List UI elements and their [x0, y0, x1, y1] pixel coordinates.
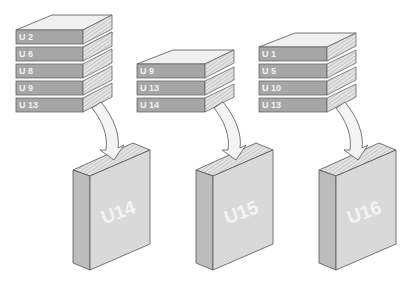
stack-2: U 9 U 13 U 14 — [137, 50, 234, 112]
merged-volume-3: U16 — [319, 143, 396, 270]
merged-volume-1: U14 — [73, 143, 150, 270]
stack-1-book-3-label: U 8 — [19, 66, 33, 76]
stack-3: U 1 U 5 U 10 U 13 — [259, 33, 356, 112]
curved-arrow-icon — [92, 102, 124, 160]
stack-3-book-4-label: U 13 — [262, 100, 281, 110]
curved-arrow-icon — [336, 102, 368, 160]
arrow-3 — [336, 102, 368, 160]
stack-3-book-3-label: U 10 — [262, 83, 281, 93]
stack-2-book-1-label: U 9 — [140, 66, 154, 76]
stack-1-book-4-label: U 9 — [19, 83, 33, 93]
curved-arrow-icon — [214, 102, 246, 160]
stack-2-book-3-label: U 14 — [140, 100, 159, 110]
arrow-2 — [214, 102, 246, 160]
merged-volume-2: U15 — [196, 143, 273, 270]
stack-1-book-5-label: U 13 — [19, 100, 38, 110]
stack-1-book-2-label: U 6 — [19, 49, 33, 59]
arrow-1 — [92, 102, 124, 160]
stack-3-book-2-label: U 5 — [262, 66, 276, 76]
stack-1-book-1-label: U 2 — [19, 32, 33, 42]
stack-2-book-2-label: U 13 — [140, 83, 159, 93]
stack-3-book-1-label: U 1 — [262, 49, 276, 59]
merge-diagram: U 2 U 6 U 8 U 9 U 13 U 9 — [0, 0, 416, 288]
stack-1: U 2 U 6 U 8 U 9 U 13 — [16, 15, 112, 112]
